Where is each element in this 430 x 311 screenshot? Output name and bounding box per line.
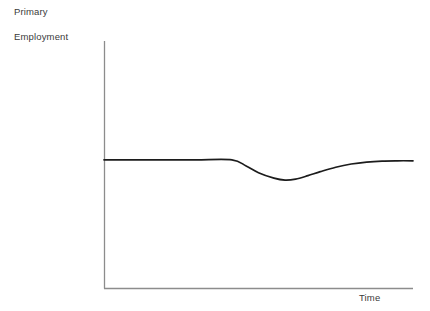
chart-figure: Primary Employment Time	[0, 0, 430, 311]
employment-curve	[104, 159, 413, 180]
plot-area	[0, 0, 430, 311]
